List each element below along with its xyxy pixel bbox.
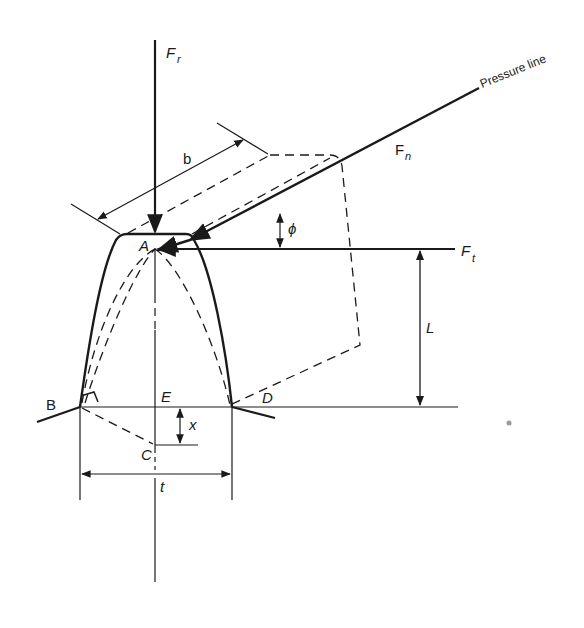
- label-d: D: [262, 389, 273, 406]
- label-phi: ϕ: [288, 220, 296, 237]
- face-width-dimension: [98, 140, 243, 219]
- label-c: C: [141, 446, 152, 463]
- label-fr: F r: [166, 44, 182, 65]
- svg-text:r: r: [177, 53, 182, 65]
- label-l: L: [426, 319, 434, 336]
- gear-tooth-diagram: F r F n F t Pressure line b ϕ A B C D E …: [0, 0, 584, 628]
- label-e: E: [161, 388, 172, 405]
- label-t: t: [160, 478, 165, 495]
- tooth-face-dashed: [128, 155, 360, 405]
- root-fillet-right: [232, 407, 275, 418]
- label-ft: F t: [461, 242, 476, 264]
- svg-text:F: F: [395, 141, 404, 158]
- label-b-width: b: [183, 150, 191, 167]
- svg-text:F: F: [461, 242, 471, 259]
- face-width-extension-left: [71, 204, 120, 234]
- root-fillet-left: [37, 407, 80, 422]
- stray-dot: [507, 421, 512, 426]
- label-pressure-line: Pressure line: [478, 51, 548, 90]
- pressure-line: [190, 88, 479, 240]
- line-bc: [82, 408, 153, 444]
- svg-text:t: t: [472, 252, 476, 264]
- tooth-profile: [80, 234, 232, 407]
- label-a: A: [138, 237, 149, 254]
- label-x: x: [188, 416, 197, 433]
- label-b: B: [46, 396, 56, 413]
- svg-text:n: n: [405, 150, 411, 162]
- label-fn: F n: [395, 141, 411, 162]
- svg-text:F: F: [166, 44, 176, 61]
